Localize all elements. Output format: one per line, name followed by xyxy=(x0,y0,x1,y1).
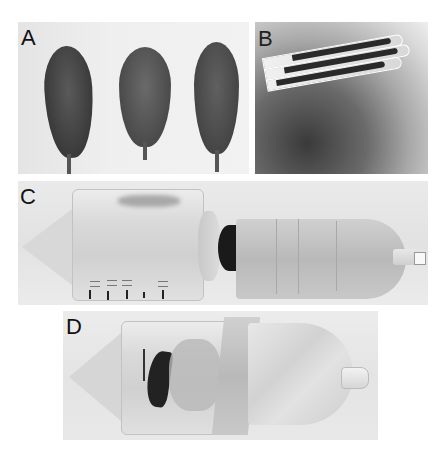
scale-mark-label xyxy=(122,280,132,286)
folded-leaf xyxy=(262,32,416,94)
scale-mark-label xyxy=(107,280,117,286)
tube-cone-left xyxy=(22,209,72,285)
tape-seam xyxy=(336,221,337,291)
leaf-2 xyxy=(119,47,171,147)
panel-label-b: B xyxy=(258,28,273,50)
tube-label-smudge xyxy=(118,195,180,207)
panel-d-taped-tube-photo: D xyxy=(63,311,378,440)
scale-tick xyxy=(126,290,128,299)
panel-b-folded-leaf-photo: B xyxy=(255,22,428,174)
scale-tick xyxy=(143,292,145,298)
tube-tip-end xyxy=(414,252,426,265)
leaf-3 xyxy=(194,42,239,154)
tube-joint xyxy=(198,211,220,281)
scale-mark-label xyxy=(158,281,168,287)
scale-tick xyxy=(162,290,164,299)
leaf-1 xyxy=(42,45,96,159)
leaf-shadow xyxy=(169,339,221,411)
leaf-1-stem xyxy=(67,154,71,174)
scale-tick xyxy=(89,290,91,299)
panel-c-tubes-photo: C xyxy=(18,181,428,305)
panel-a-leaves-photo: A xyxy=(18,22,249,174)
scale-mark-label xyxy=(90,281,100,287)
panel-label-c: C xyxy=(20,186,36,208)
tape-seam xyxy=(298,219,299,294)
scale-tick xyxy=(107,291,109,300)
tape-wrap-crumpled xyxy=(248,323,353,425)
marker-line xyxy=(143,349,145,381)
panel-label-d: D xyxy=(66,316,82,338)
tape-wrapped-tube xyxy=(236,219,406,299)
panel-label-a: A xyxy=(21,27,36,49)
leaf-2-stem xyxy=(143,142,147,160)
leaf-3-stem xyxy=(215,150,219,172)
tube-tip xyxy=(341,367,369,389)
tape-seam xyxy=(276,219,277,294)
tube-cone-left xyxy=(69,333,121,421)
